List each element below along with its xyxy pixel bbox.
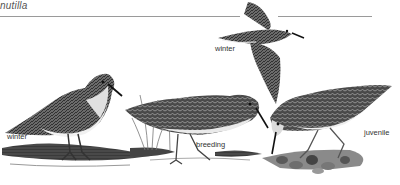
ground-right-pebbles	[262, 150, 363, 174]
label-flying-winter: winter	[215, 44, 235, 53]
ground-center	[130, 148, 262, 161]
ground-left	[2, 143, 150, 166]
bird-juvenile	[270, 85, 392, 158]
label-juvenile: juvenile	[364, 128, 389, 137]
label-standing-winter: winter	[7, 132, 27, 141]
illustration-plate	[0, 0, 400, 185]
label-breeding: breeding	[196, 140, 225, 149]
bird-winter-flying	[218, 2, 304, 104]
